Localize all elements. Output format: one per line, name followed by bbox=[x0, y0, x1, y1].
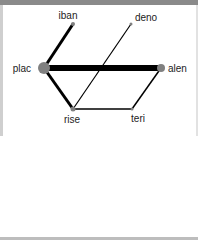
edges-group bbox=[44, 24, 161, 109]
node-label-deno: deno bbox=[135, 12, 158, 23]
node-label-iban: iban bbox=[59, 10, 78, 21]
node-label-rise: rise bbox=[64, 114, 81, 125]
node-label-plac: plac bbox=[13, 63, 31, 74]
node-teri bbox=[131, 108, 134, 111]
edge-plac-rise bbox=[44, 68, 73, 109]
node-label-teri: teri bbox=[131, 113, 145, 124]
node-plac bbox=[38, 62, 50, 74]
node-label-alen: alen bbox=[168, 63, 187, 74]
network-graph: ibandenoplacalenriseteri bbox=[0, 0, 198, 136]
node-alen bbox=[157, 64, 165, 72]
node-iban bbox=[71, 22, 75, 26]
node-rise bbox=[71, 107, 76, 112]
node-deno bbox=[130, 23, 133, 26]
edge-plac-iban bbox=[44, 24, 73, 68]
edge-teri-alen bbox=[132, 68, 161, 109]
